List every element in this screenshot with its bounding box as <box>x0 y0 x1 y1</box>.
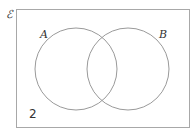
venn-diagram: ℰ A B 2 <box>0 0 196 134</box>
set-a-label: A <box>39 28 48 41</box>
set-b-circle <box>87 28 169 110</box>
outside-value: 2 <box>29 107 37 121</box>
set-b-label: B <box>158 28 167 41</box>
universal-set-label: ℰ <box>6 8 14 21</box>
